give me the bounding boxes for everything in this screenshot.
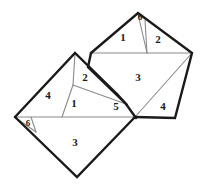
piece-label-2-right: 2 — [155, 33, 161, 45]
piece-label-3-right: 3 — [135, 71, 141, 83]
dissection-figure: 1 2 6 3 4 5 2 1 4 6 3 — [0, 0, 203, 190]
piece-label-6-left: 6 — [26, 118, 31, 128]
piece-label-3-left: 3 — [72, 136, 78, 148]
piece-label-1-right: 1 — [120, 31, 126, 43]
piece-label-4-right: 4 — [160, 100, 166, 112]
piece-label-5-center: 5 — [113, 100, 119, 112]
piece-label-6-right: 6 — [138, 12, 143, 22]
piece-label-4-left: 4 — [45, 89, 51, 101]
piece-label-2-left: 2 — [82, 71, 88, 83]
figure-faces — [15, 13, 192, 177]
piece-label-1-left: 1 — [71, 97, 77, 109]
dissection-diagram: 1 2 6 3 4 5 2 1 4 6 3 — [0, 0, 203, 190]
